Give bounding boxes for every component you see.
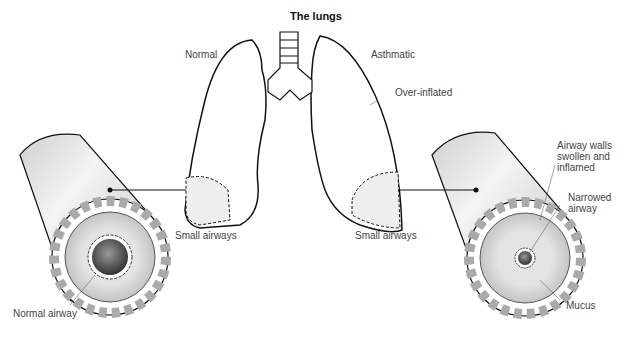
lungs-diagram: The lungs Normal Asthmatic Over-inflated… — [0, 0, 629, 337]
label-narrowed-line2: airway — [568, 203, 611, 214]
label-small-airways-left: Small airways — [175, 230, 237, 241]
label-over-inflated: Over-inflated — [395, 87, 452, 98]
label-airway-walls-line2: swollen and — [557, 151, 612, 162]
label-airway-walls-line1: Airway walls — [557, 140, 612, 151]
label-normal: Normal — [185, 49, 217, 60]
label-airway-walls: Airway walls swollen and inflamed — [557, 140, 612, 173]
label-normal-airway: Normal airway — [13, 308, 77, 319]
asthmatic-airway-tube — [400, 132, 583, 316]
normal-airway-tube — [20, 134, 188, 315]
label-airway-walls-line3: inflamed — [557, 162, 612, 173]
label-small-airways-right: Small airways — [355, 230, 417, 241]
diagram-title: The lungs — [290, 10, 342, 22]
label-narrowed-airway: Narrowed airway — [568, 192, 611, 214]
label-narrowed-line1: Narrowed — [568, 192, 611, 203]
label-asthmatic: Asthmatic — [371, 49, 415, 60]
label-mucus: Mucus — [566, 300, 595, 311]
